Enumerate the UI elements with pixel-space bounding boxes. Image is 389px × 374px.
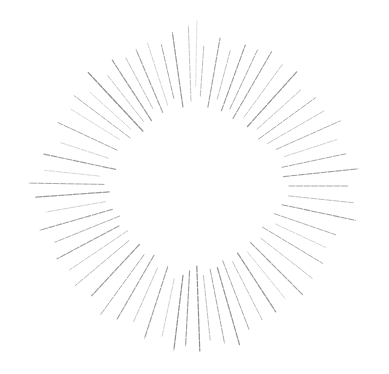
ray-line xyxy=(112,60,151,120)
ray-line xyxy=(289,196,354,203)
ray-line xyxy=(108,76,144,122)
ray-line xyxy=(284,169,359,177)
starburst-rays xyxy=(0,0,389,374)
ray-line xyxy=(233,262,263,320)
ray-line xyxy=(57,226,119,259)
ray-line xyxy=(282,205,355,221)
ray-line xyxy=(88,73,143,132)
ray-line xyxy=(45,170,100,176)
ray-line xyxy=(282,154,346,168)
ray-line xyxy=(34,192,109,197)
ray-line xyxy=(61,143,109,159)
ray-line xyxy=(276,224,326,247)
ray-line xyxy=(188,26,191,101)
ray-line xyxy=(40,209,112,230)
ray-line xyxy=(274,214,335,235)
ray-line xyxy=(261,238,312,278)
ray-line xyxy=(172,33,183,107)
ray-line xyxy=(217,268,239,345)
ray-line xyxy=(58,123,117,151)
ray-line xyxy=(186,271,190,346)
ray-line xyxy=(29,183,104,184)
ray-line xyxy=(263,227,323,263)
ray-line xyxy=(42,154,115,170)
ray-line xyxy=(75,241,129,286)
ray-line xyxy=(174,275,183,350)
starburst-graphic xyxy=(0,0,389,374)
ray-line xyxy=(200,46,204,96)
ray-line xyxy=(133,268,157,323)
ray-line xyxy=(203,276,210,341)
ray-line xyxy=(196,21,197,86)
ray-line xyxy=(276,121,340,149)
ray-line xyxy=(55,216,120,242)
ray-line xyxy=(162,279,174,338)
ray-line xyxy=(223,261,250,331)
ray-line xyxy=(117,255,155,320)
ray-line xyxy=(248,71,298,127)
ray-line xyxy=(148,43,168,105)
ray-line xyxy=(210,269,224,343)
ray-line xyxy=(197,266,200,351)
ray-line xyxy=(46,202,105,212)
ray-line xyxy=(268,111,324,144)
